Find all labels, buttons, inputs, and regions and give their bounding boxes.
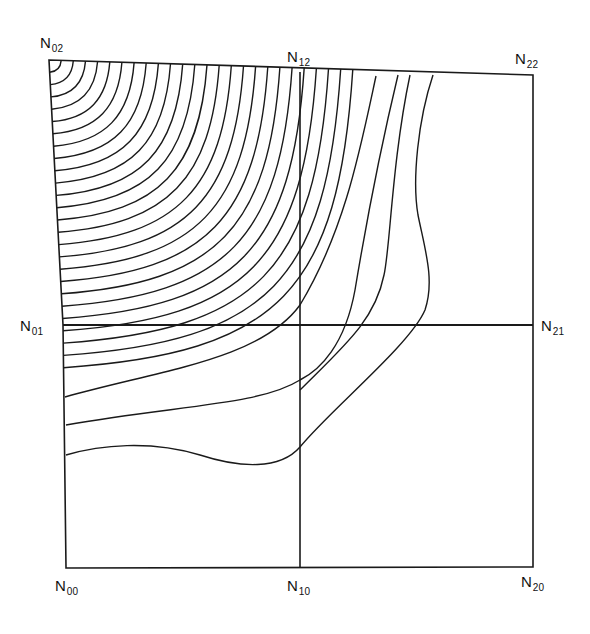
node-label-n02: N02 — [40, 35, 63, 50]
node-label-n22: N22 — [515, 51, 538, 66]
node-label-n20: N20 — [521, 574, 544, 589]
contour-line — [52, 62, 110, 122]
node-label-n01: N01 — [20, 318, 43, 333]
contour-line — [51, 61, 86, 97]
contour-diagram — [0, 0, 590, 634]
node-label-n10: N10 — [287, 578, 310, 593]
contour-lines — [50, 60, 433, 464]
contour-line — [58, 65, 208, 220]
contour-line — [57, 65, 195, 208]
contour-line — [63, 68, 316, 331]
mesh-lines — [49, 60, 533, 568]
node-label-n21: N21 — [541, 318, 564, 333]
contour-line — [50, 60, 62, 72]
contour-line — [66, 75, 398, 425]
contour-line — [50, 61, 73, 85]
contour-line — [60, 66, 256, 269]
node-label-n12: N12 — [287, 49, 310, 64]
contour-line — [56, 64, 171, 183]
contour-line — [300, 75, 410, 390]
mesh-boundary — [49, 60, 533, 568]
contour-line — [61, 67, 268, 282]
node-label-n00: N00 — [55, 578, 78, 593]
contour-line — [61, 67, 280, 294]
contour-line — [64, 69, 353, 367]
